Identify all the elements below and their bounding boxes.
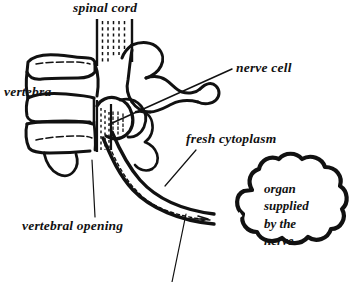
label-fresh-cytoplasm: fresh cytoplasm — [186, 132, 276, 146]
figure-canvas: spinal cord vertebra nerve cell fresh cy… — [0, 0, 363, 282]
label-nerve-cell: nerve cell — [236, 61, 292, 75]
label-vertebral-opening: vertebral opening — [22, 219, 123, 233]
label-organ-line-2: supplied — [264, 197, 309, 214]
label-vertebra: vertebra — [4, 85, 51, 99]
label-organ-line-4: nerve — [264, 232, 309, 249]
label-spinal-cord: spinal cord — [73, 1, 137, 15]
label-organ-line-1: organ — [264, 180, 309, 197]
label-organ-line-3: by the — [264, 215, 309, 232]
label-organ-supplied-by-the-nerve: organ supplied by the nerve — [264, 180, 309, 249]
